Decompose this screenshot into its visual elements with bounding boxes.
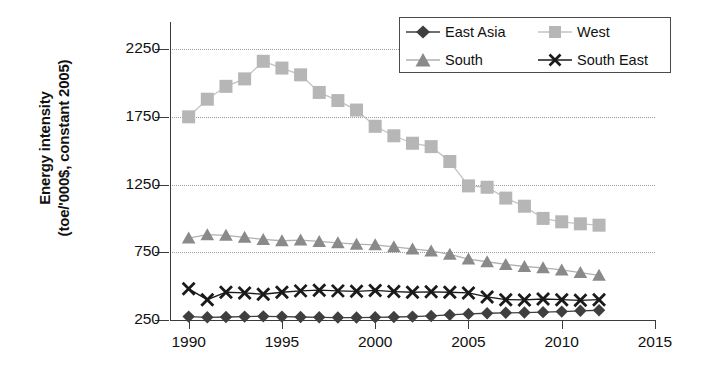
legend-item-east-asia[interactable]: East Asia (400, 23, 532, 41)
gridline (170, 185, 655, 186)
data-point (518, 306, 530, 318)
data-point (275, 62, 288, 75)
x-axis-line (170, 320, 655, 321)
data-point (219, 229, 233, 241)
data-point (406, 137, 419, 150)
data-point (182, 232, 196, 244)
data-point (220, 311, 232, 323)
data-point (201, 311, 213, 323)
data-point (424, 244, 438, 256)
data-point (331, 94, 344, 107)
data-point (556, 294, 568, 306)
data-point (444, 286, 456, 298)
legend-item-west[interactable]: West (532, 23, 610, 41)
data-point (295, 285, 307, 297)
legend-label-south-east: South East (577, 52, 648, 68)
data-point (351, 285, 363, 297)
data-point (574, 294, 586, 306)
x-tick (375, 320, 376, 329)
data-point (201, 294, 213, 306)
data-point (294, 234, 308, 246)
data-point (256, 233, 270, 245)
data-point (238, 72, 251, 85)
legend-row-2: South South East (400, 46, 670, 74)
data-point (443, 155, 456, 168)
y-tick-label: 1250 (100, 175, 160, 193)
x-tick-label: 1990 (159, 333, 219, 351)
data-point (574, 266, 588, 278)
data-point (574, 217, 587, 230)
x-tick (189, 320, 190, 329)
data-point (276, 286, 288, 298)
series-south (182, 228, 606, 281)
data-point (332, 285, 344, 297)
data-point (556, 305, 568, 317)
data-point (574, 305, 586, 317)
data-point (387, 129, 400, 142)
data-point (388, 286, 400, 298)
legend-label-south: South (445, 52, 483, 68)
data-point (537, 306, 549, 318)
data-point (220, 286, 232, 298)
data-point (500, 307, 512, 319)
data-point (593, 304, 605, 316)
data-point (499, 258, 513, 270)
y-axis-line (170, 22, 171, 320)
y-axis-title-line1: Energy intensity (35, 0, 54, 298)
legend-item-south[interactable]: South (400, 51, 532, 69)
data-point (331, 236, 345, 248)
y-tick-label: 1750 (100, 107, 160, 125)
data-point (593, 219, 606, 232)
data-point (537, 212, 550, 225)
data-point (257, 55, 270, 68)
cross-marker-icon (538, 51, 572, 69)
data-point (219, 80, 232, 93)
y-axis-title-line2: (toe/'000$, constant 2005) (54, 0, 73, 298)
x-tick-label: 2010 (532, 333, 592, 351)
data-point (462, 308, 474, 320)
y-tick-label: 750 (100, 242, 160, 260)
legend-label-west: West (577, 24, 610, 40)
data-point (239, 287, 251, 299)
data-point (201, 93, 214, 106)
data-point (388, 311, 400, 323)
x-tick-label: 2015 (625, 333, 685, 351)
data-point (555, 215, 568, 228)
data-point (294, 311, 306, 323)
gridline (170, 252, 655, 253)
data-point (518, 294, 530, 306)
data-point (407, 286, 419, 298)
data-point (369, 284, 381, 296)
data-point (368, 238, 382, 250)
data-point (500, 294, 512, 306)
data-point (481, 181, 494, 194)
legend-item-south-east[interactable]: South East (532, 51, 648, 69)
data-point (350, 104, 363, 117)
data-point (480, 255, 494, 267)
series-west (182, 55, 605, 232)
data-point (425, 140, 438, 153)
data-point (313, 86, 326, 99)
data-point (313, 311, 325, 323)
data-point (462, 287, 474, 299)
data-point (536, 261, 550, 273)
data-point (499, 192, 512, 205)
x-tick (282, 320, 283, 329)
series-south-east (183, 283, 605, 307)
data-point (481, 291, 493, 303)
data-point (313, 284, 325, 296)
data-point (369, 120, 382, 133)
square-marker-icon (538, 23, 572, 41)
legend: East Asia West (399, 17, 671, 73)
data-point (518, 200, 531, 213)
x-tick (655, 320, 656, 329)
data-point (537, 293, 549, 305)
x-tick (468, 320, 469, 329)
data-point (593, 294, 605, 306)
data-point (294, 68, 307, 81)
gridline (170, 117, 655, 118)
data-point (387, 240, 401, 252)
x-tick (562, 320, 563, 329)
data-point (555, 263, 569, 275)
data-point (592, 269, 606, 281)
